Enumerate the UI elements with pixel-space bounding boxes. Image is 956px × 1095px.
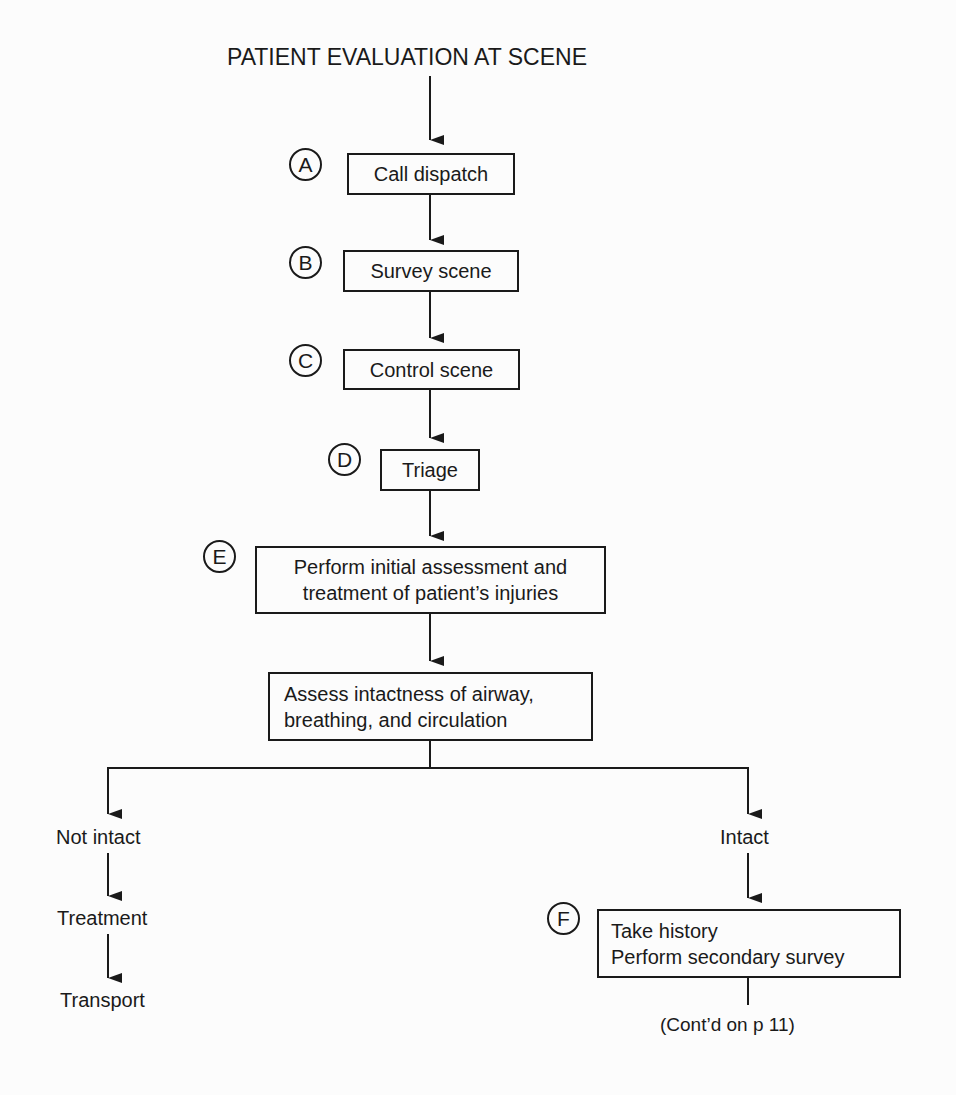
step-label-line1: Assess intactness of airway, [284,681,534,707]
step-label-line1: Take history [611,918,718,944]
step-marker-e: E [203,540,236,573]
step-marker-b: B [289,246,322,279]
step-history-secondary-survey: Take history Perform secondary survey [597,909,901,978]
step-marker-d: D [328,443,361,476]
step-label: Call dispatch [374,161,489,187]
step-marker-a: A [289,148,322,181]
step-label-line2: treatment of patient’s injuries [303,580,558,606]
branch-intact: Intact [720,826,769,849]
step-call-dispatch: Call dispatch [347,153,515,195]
step-survey-scene: Survey scene [343,250,519,292]
step-label-line1: Perform initial assessment and [294,554,567,580]
step-label: Survey scene [370,258,491,284]
step-marker-c: C [289,344,322,377]
step-marker-f: F [547,902,580,935]
branch-not-intact: Not intact [56,826,140,849]
branch-transport: Transport [60,989,145,1012]
step-control-scene: Control scene [343,349,520,390]
step-label: Triage [402,457,458,483]
step-label: Control scene [370,357,493,383]
step-triage: Triage [380,449,480,491]
continuation-note: (Cont’d on p 11) [660,1014,795,1036]
step-initial-assessment: Perform initial assessment and treatment… [255,546,606,614]
step-label-line2: Perform secondary survey [611,944,844,970]
page-title: PATIENT EVALUATION AT SCENE [227,44,637,71]
branch-treatment: Treatment [57,907,147,930]
step-label-line2: breathing, and circulation [284,707,507,733]
step-assess-abc: Assess intactness of airway, breathing, … [268,672,593,741]
